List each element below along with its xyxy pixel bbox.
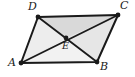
vertex-label-a: A — [8, 57, 16, 68]
geometry-figure: A B C D E — [0, 0, 135, 77]
vertex-dot-c — [116, 13, 121, 18]
vertex-label-d: D — [28, 1, 37, 12]
vertex-label-e: E — [62, 41, 69, 51]
vertex-dot-a — [19, 61, 24, 66]
vertex-label-c: C — [120, 0, 128, 11]
vertex-dot-b — [95, 60, 100, 65]
vertex-dot-d — [36, 15, 41, 20]
vertex-label-b: B — [100, 61, 108, 72]
parallelogram-diagram — [0, 0, 135, 77]
